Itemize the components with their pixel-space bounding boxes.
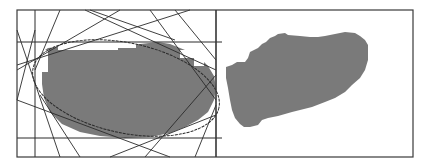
left-panel (17, 10, 228, 157)
figure-canvas (0, 0, 428, 166)
tangent-line (90, 10, 175, 40)
figure (0, 0, 428, 166)
tangent-line (17, 30, 35, 100)
notch (116, 44, 136, 48)
right-panel (226, 32, 368, 127)
right-blob (226, 32, 368, 127)
